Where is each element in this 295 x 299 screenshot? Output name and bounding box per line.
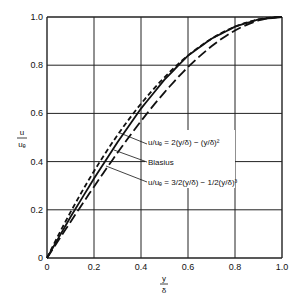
y-axis-label-den: uₑ: [18, 140, 25, 149]
y-tick-label: 0.8: [30, 60, 43, 70]
chart: 000.20.20.40.40.60.60.80.81.01.0 u uₑ y …: [0, 0, 295, 299]
y-tick-label: 0: [38, 253, 43, 263]
x-tick-label: 1.0: [276, 262, 289, 272]
x-tick-label: 0: [44, 262, 49, 272]
y-axis-label-num: u: [20, 128, 24, 137]
x-tick-label: 0.4: [135, 262, 148, 272]
y-tick-label: 1.0: [30, 12, 43, 22]
x-axis-label-num: y: [162, 274, 166, 283]
y-tick-label: 0.6: [30, 108, 43, 118]
x-tick-label: 0.2: [88, 262, 101, 272]
annotation-blasius: Blasius: [148, 158, 174, 167]
x-tick-label: 0.8: [229, 262, 242, 272]
y-tick-label: 0.2: [30, 205, 43, 215]
x-axis-label-den: δ: [162, 286, 167, 295]
y-tick-label: 0.4: [30, 157, 43, 167]
x-tick-label: 0.6: [182, 262, 195, 272]
annotation-cubic: u/uₑ = 3/2(y/δ) − 1/2(y/δ)³: [148, 178, 238, 187]
annotation-parabolic: u/uₑ = 2(y/δ) − (y/δ)²: [148, 138, 220, 147]
